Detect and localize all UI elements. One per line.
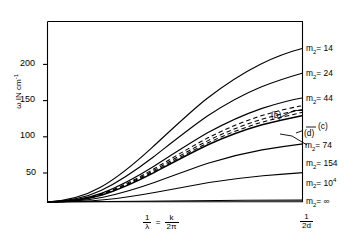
curve-c-dashed xyxy=(47,106,303,202)
curve-label-m2-154-value: = 154 xyxy=(316,158,337,168)
curve-set xyxy=(47,48,303,202)
x-axis-frac1-numerator: 1 xyxy=(143,214,151,222)
curve-label-m2-24: m2= 24 xyxy=(306,68,333,80)
y-axis-title-exponent: -1 xyxy=(13,74,19,79)
x-axis-frac-inverse-lambda: 1 λ xyxy=(143,214,151,231)
x-axis-frac-k-over-2pi: k 2π xyxy=(165,214,179,231)
y-axis-ticks xyxy=(43,64,48,173)
curve-label-c: (c) xyxy=(318,121,328,131)
curve-label-m2-10k-value: = 10 xyxy=(316,178,333,188)
curve-label-m2-24-m: m xyxy=(306,68,313,78)
x-right-denominator: 2d xyxy=(300,221,313,230)
x-tick-label-zone-boundary: 1 2d xyxy=(300,213,313,230)
curve-label-m2-74-m: m xyxy=(305,140,312,150)
x-axis-equals-sign: = xyxy=(154,218,163,227)
curve-label-m2-44: m2= 44 xyxy=(306,93,333,105)
curve-label-m2-44-value: = 44 xyxy=(316,93,333,103)
curve-label-m2-74-value: = 74 xyxy=(315,140,332,150)
y-tick-label-50: 50 xyxy=(26,167,36,177)
curve-label-m2-10k-m: m xyxy=(306,178,313,188)
curve-label-d-text: (d) xyxy=(304,128,314,138)
y-axis-title: ω IN cm-1 xyxy=(13,61,24,121)
curve-label-b: (b) xyxy=(271,110,281,120)
x-axis-frac1-denominator: λ xyxy=(143,222,151,231)
curve-b-dashed xyxy=(47,109,303,202)
x-axis-title: 1 λ = k 2π xyxy=(143,214,179,231)
x-right-numerator: 1 xyxy=(300,213,313,221)
curve-label-m2-inf-value: = ∞ xyxy=(316,196,329,206)
curve-label-m2-24-value: = 24 xyxy=(316,68,333,78)
curve-label-m2-74: m2= 74 xyxy=(305,140,332,152)
curve-label-m2-14-value: = 14 xyxy=(316,43,333,53)
curve-m2-14 xyxy=(47,48,303,202)
curve-m2-24 xyxy=(47,73,303,202)
curve-label-m2-inf-m: m xyxy=(306,196,313,206)
curve-label-m2-14-m: m xyxy=(306,43,313,53)
curve-label-m2-10k-exponent: 4 xyxy=(333,177,336,183)
curve-label-b-text: (b) xyxy=(271,110,281,120)
dispersion-curve-figure: 200 150 100 50 ω IN cm-1 1 λ = k 2π 1 2d… xyxy=(0,0,358,249)
curve-label-m2-154-m: m xyxy=(306,158,313,168)
curve-label-c-text: (c) xyxy=(318,121,328,131)
curve-label-m2-10k: m2= 104 xyxy=(306,177,336,189)
y-axis-title-text: ω IN cm xyxy=(14,79,23,108)
x-axis-frac2-denominator: 2π xyxy=(165,222,179,231)
x-axis-frac2-numerator: k xyxy=(165,214,179,222)
curve-label-m2-14: m2= 14 xyxy=(306,43,333,55)
curve-label-m2-154: m2= 154 xyxy=(306,158,338,170)
curve-label-m2-44-m: m xyxy=(306,93,313,103)
curve-label-m2-inf: m2= ∞ xyxy=(306,196,330,208)
y-tick-label-100: 100 xyxy=(20,130,35,140)
curve-label-d: (d) xyxy=(304,128,314,138)
x-right-frac: 1 2d xyxy=(300,213,313,230)
